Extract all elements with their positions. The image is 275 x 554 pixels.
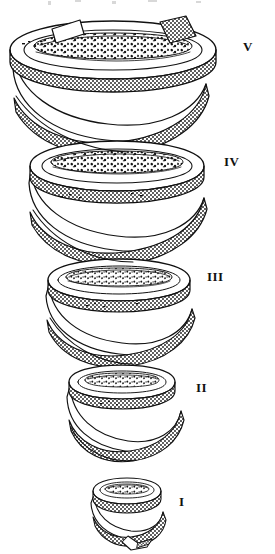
coil-turn-v bbox=[10, 16, 216, 92]
helical-coil-diagram bbox=[0, 0, 275, 554]
level-label-iii: III bbox=[207, 270, 223, 283]
coil-turn-iii bbox=[48, 259, 190, 312]
coil-turn-ii bbox=[69, 365, 175, 409]
level-label-iv: IV bbox=[224, 155, 239, 168]
level-label-v: V bbox=[243, 40, 253, 53]
coil-turn-i bbox=[93, 478, 161, 513]
figure-container: V IV III II I bbox=[0, 0, 275, 554]
level-label-i: I bbox=[179, 495, 184, 508]
level-label-ii: II bbox=[196, 381, 207, 394]
coil-turn-iv bbox=[30, 141, 204, 203]
